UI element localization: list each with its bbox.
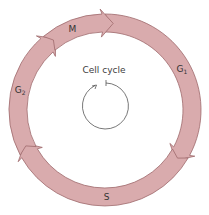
cell-cycle-ring	[9, 9, 201, 206]
phase-label-m: M	[69, 24, 77, 34]
phase-label-s: S	[104, 192, 110, 202]
phase-arrow-m	[43, 9, 113, 50]
diagram-title: Cell cycle	[83, 65, 126, 75]
cell-cycle-diagram: G1SG2M Cell cycle	[0, 0, 209, 215]
circular-arrow-icon	[82, 80, 128, 129]
phase-arrow-g2	[9, 36, 56, 155]
